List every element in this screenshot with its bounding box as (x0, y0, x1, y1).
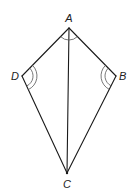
vertex-label-a: A (64, 12, 72, 24)
vertex-label-b: B (119, 70, 126, 82)
side-da (22, 28, 69, 76)
side-bc (67, 76, 116, 173)
kite-diagram: A B C D (0, 0, 132, 194)
side-cd (22, 76, 67, 173)
vertex-label-c: C (63, 178, 71, 190)
side-ab (69, 28, 116, 76)
diagonal-ac (67, 28, 69, 173)
vertex-point-c (66, 172, 68, 174)
vertex-label-d: D (11, 70, 19, 82)
